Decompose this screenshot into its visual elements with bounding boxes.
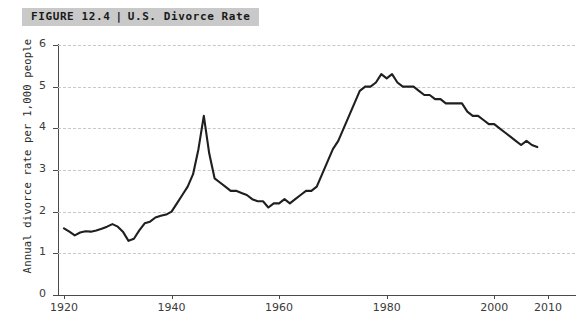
y-tick-mark-0 [53,295,58,296]
x-tick-label-1920: 1920 [34,301,94,314]
x-tick-label-1980: 1980 [357,301,417,314]
divorce-rate-line-series [58,45,575,295]
x-tick-mark-1920 [64,295,65,299]
x-tick-mark-1940 [172,295,173,299]
figure-title-banner: FIGURE 12.4|U.S. Divorce Rate [22,8,259,26]
x-tick-mark-2010 [548,295,549,299]
x-axis-line [58,295,576,296]
x-tick-mark-1960 [279,295,280,299]
x-tick-label-2010: 2010 [518,301,578,314]
x-tick-mark-1980 [387,295,388,299]
x-tick-mark-2000 [494,295,495,299]
x-tick-label-1940: 1940 [142,301,202,314]
y-tick-label-3: 3 [16,162,46,175]
plot-area [58,45,575,295]
y-tick-label-6: 6 [16,37,46,50]
y-tick-label-0: 0 [16,287,46,300]
x-tick-label-1960: 1960 [249,301,309,314]
figure-number: FIGURE 12.4 [31,8,110,26]
figure-container: FIGURE 12.4|U.S. Divorce Rate Annual div… [0,0,587,331]
y-tick-label-5: 5 [16,79,46,92]
y-tick-label-4: 4 [16,120,46,133]
figure-title: U.S. Divorce Rate [128,8,251,26]
y-axis-title: Annual divorce rate per 1,000 people [21,31,33,281]
x-tick-label-2000: 2000 [464,301,524,314]
y-tick-label-1: 1 [16,245,46,258]
banner-separator: | [110,8,127,26]
y-tick-label-2: 2 [16,204,46,217]
